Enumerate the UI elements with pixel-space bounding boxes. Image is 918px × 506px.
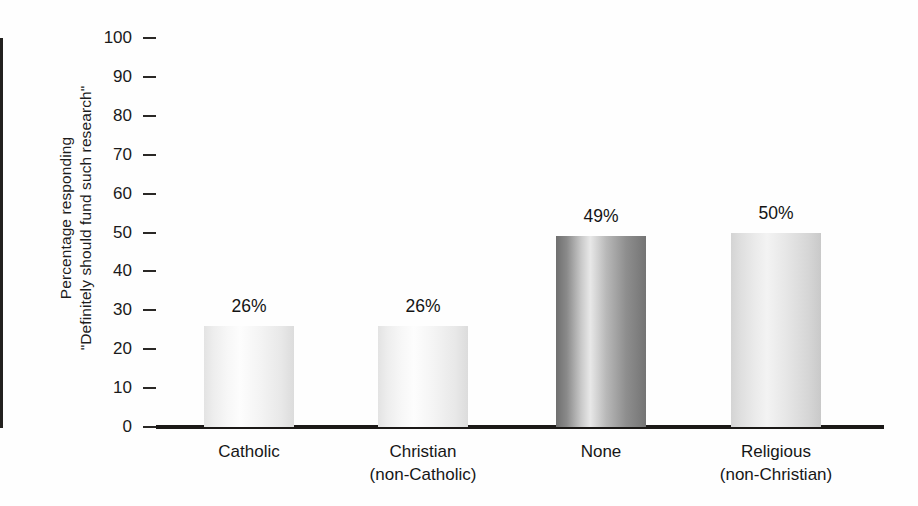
y-tick-mark bbox=[143, 387, 156, 389]
bar bbox=[204, 326, 294, 427]
y-axis-title-line1: Percentage responding bbox=[56, 137, 76, 299]
bar-chart-figure: Percentage responding "Definitely should… bbox=[0, 0, 918, 506]
bar bbox=[378, 326, 468, 427]
bar-value-label: 50% bbox=[726, 205, 826, 223]
y-axis-line bbox=[0, 38, 3, 428]
y-tick-mark bbox=[143, 426, 156, 428]
x-category-label-line1: Catholic bbox=[218, 442, 279, 461]
y-tick-label: 90 bbox=[78, 68, 132, 85]
bar bbox=[731, 233, 821, 428]
x-category-label-line1: Christian bbox=[389, 442, 456, 461]
y-tick-label: 20 bbox=[78, 340, 132, 357]
y-tick-label: 10 bbox=[78, 379, 132, 396]
y-tick-label: 30 bbox=[78, 301, 132, 318]
x-category-label-line2: (non-Christian) bbox=[681, 463, 871, 486]
x-category-label: None bbox=[506, 440, 696, 463]
x-category-label-line1: Religious bbox=[741, 442, 811, 461]
x-category-label: Catholic bbox=[154, 440, 344, 463]
y-tick-mark bbox=[143, 76, 156, 78]
y-tick-mark bbox=[143, 348, 156, 350]
x-category-label-line1: None bbox=[581, 442, 622, 461]
x-category-label: Christian(non-Catholic) bbox=[328, 440, 518, 487]
y-tick-mark bbox=[143, 193, 156, 195]
x-category-label: Religious(non-Christian) bbox=[681, 440, 871, 487]
x-category-label-line2: (non-Catholic) bbox=[328, 463, 518, 486]
y-tick-label: 100 bbox=[78, 29, 132, 46]
y-tick-mark bbox=[143, 232, 156, 234]
y-tick-mark bbox=[143, 154, 156, 156]
y-tick-label: 0 bbox=[78, 418, 132, 435]
y-tick-mark bbox=[143, 309, 156, 311]
bar-value-label: 26% bbox=[373, 298, 473, 316]
bar-value-label: 26% bbox=[199, 298, 299, 316]
y-tick-label: 50 bbox=[78, 224, 132, 241]
bar-value-label: 49% bbox=[551, 208, 651, 226]
y-tick-label: 60 bbox=[78, 185, 132, 202]
y-tick-mark bbox=[143, 115, 156, 117]
y-tick-label: 80 bbox=[78, 107, 132, 124]
y-tick-label: 70 bbox=[78, 146, 132, 163]
bar bbox=[556, 236, 646, 427]
y-tick-mark bbox=[143, 270, 156, 272]
y-tick-mark bbox=[143, 37, 156, 39]
y-tick-label: 40 bbox=[78, 262, 132, 279]
